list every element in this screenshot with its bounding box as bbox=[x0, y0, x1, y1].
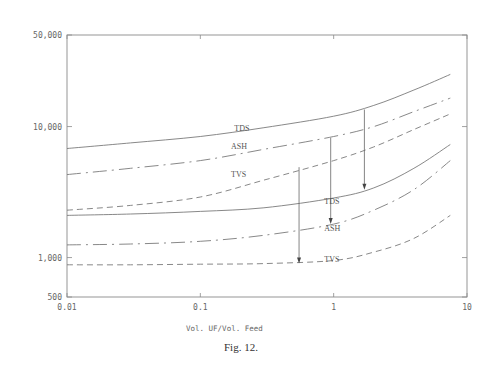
y-tick-label: 10,000 bbox=[33, 123, 62, 132]
x-tick-label: 1 bbox=[331, 303, 336, 312]
x-axis-label: Vol. UF/Vol. Feed bbox=[186, 324, 263, 333]
curve-label-tvs: TVS bbox=[324, 255, 339, 264]
curve-tvs-lower bbox=[67, 215, 450, 264]
arrow-head-icon bbox=[362, 184, 366, 190]
x-tick-label: 0.1 bbox=[193, 303, 208, 312]
plot-border bbox=[67, 35, 467, 297]
y-tick-label: 50,000 bbox=[33, 31, 62, 40]
curve-tds-lower bbox=[67, 145, 450, 216]
annotation-arrows bbox=[297, 109, 366, 263]
curve-ash-lower bbox=[67, 161, 450, 245]
curve-label-ash: ASH bbox=[324, 224, 340, 233]
data-curves bbox=[67, 74, 450, 264]
y-tick-label: 1,000 bbox=[38, 254, 62, 263]
curve-label-tds: TDS bbox=[234, 124, 249, 133]
curve-label-ash: ASH bbox=[231, 142, 247, 151]
curve-tds-upper bbox=[67, 74, 450, 148]
curve-label-tvs: TVS bbox=[231, 170, 246, 179]
x-tick-label: 0.01 bbox=[57, 303, 76, 312]
curve-ash-upper bbox=[67, 98, 450, 175]
x-tick-label: 10 bbox=[462, 303, 472, 312]
plot-frame bbox=[67, 35, 467, 297]
curve-label-tds: TDS bbox=[324, 197, 339, 206]
chart-canvas: 0.010.11105001,00010,00050,000 TDSASHTVS… bbox=[0, 0, 486, 375]
curve-labels: TDSASHTVSTDSASHTVS bbox=[231, 124, 340, 265]
y-tick-label: 500 bbox=[48, 293, 63, 302]
figure-caption: Fig. 12. bbox=[224, 341, 258, 353]
